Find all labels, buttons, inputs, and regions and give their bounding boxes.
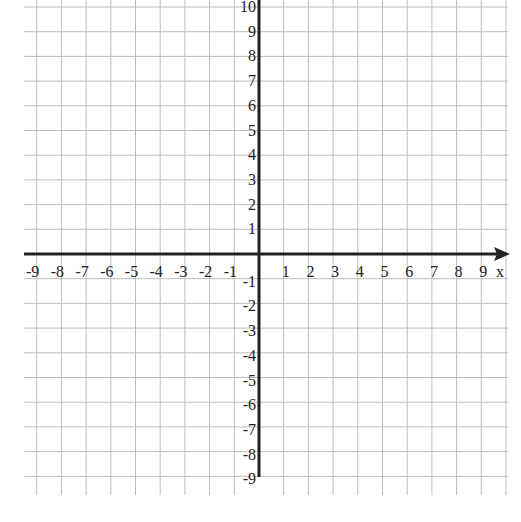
x-tick-label: 4: [356, 263, 364, 280]
x-tick-label: -3: [174, 263, 187, 280]
x-tick-label: -2: [199, 263, 212, 280]
y-tick-label: -8: [243, 446, 256, 463]
y-tick-label: 7: [248, 72, 256, 89]
x-tick-label: -4: [150, 263, 163, 280]
x-tick-label: -6: [100, 263, 113, 280]
y-tick-label: -3: [243, 322, 256, 339]
y-tick-label: 3: [248, 171, 256, 188]
y-tick-label: 8: [248, 47, 256, 64]
y-tick-label: -7: [243, 421, 256, 438]
y-tick-label: 2: [248, 196, 256, 213]
y-tick-label: 6: [248, 97, 256, 114]
x-tick-label: 9: [479, 263, 487, 280]
y-tick-label: -9: [243, 470, 256, 487]
y-tick-label: -2: [243, 297, 256, 314]
x-tick-label: -9: [26, 263, 39, 280]
y-tick-label: 5: [248, 122, 256, 139]
y-tick-label: 10: [240, 0, 256, 15]
y-tick-label: -1: [243, 273, 256, 290]
x-tick-label: 6: [405, 263, 413, 280]
y-tick-label: -5: [243, 372, 256, 389]
x-tick-label: -8: [51, 263, 64, 280]
x-tick-label: 2: [306, 263, 314, 280]
y-tick-label: 9: [248, 23, 256, 40]
x-tick-labels: -9-8-7-6-5-4-3-2-1123456789: [26, 263, 487, 280]
axes: [24, 0, 510, 477]
y-tick-label: 4: [248, 146, 256, 163]
coordinate-plane: -9-8-7-6-5-4-3-2-1123456789 10987654321-…: [0, 0, 521, 522]
x-tick-label: 1: [282, 263, 290, 280]
x-tick-label: 5: [381, 263, 389, 280]
x-tick-label: 8: [455, 263, 463, 280]
grid-lines: [24, 0, 508, 495]
x-tick-label: 7: [430, 263, 438, 280]
x-axis-label: x: [496, 263, 504, 280]
y-tick-labels: 10987654321-1-2-3-4-5-6-7-8-9: [240, 0, 256, 487]
y-tick-label: -6: [243, 396, 256, 413]
x-tick-label: 3: [331, 263, 339, 280]
x-tick-label: -7: [75, 263, 88, 280]
x-tick-label: -1: [224, 263, 237, 280]
y-tick-label: -4: [243, 347, 256, 364]
x-tick-label: -5: [125, 263, 138, 280]
y-tick-label: 1: [248, 220, 256, 237]
